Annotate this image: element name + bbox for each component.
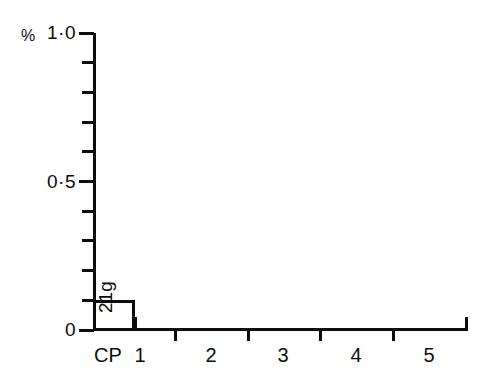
y-axis-tick-label-wrap: 0 bbox=[0, 320, 76, 339]
x-axis-label-cp: CP bbox=[94, 345, 122, 365]
x-axis-tick bbox=[247, 328, 250, 341]
x-axis-tick bbox=[174, 328, 177, 341]
y-axis-tick-label: 1·0 bbox=[0, 23, 76, 42]
x-axis-tick bbox=[465, 317, 468, 331]
y-axis-tick-label: 0·5 bbox=[0, 172, 76, 191]
y-axis-tick bbox=[79, 180, 94, 183]
y-axis-tick-label-wrap: 0·5 bbox=[0, 172, 76, 191]
x-axis-label-3: 3 bbox=[277, 345, 288, 365]
x-axis-label-2: 2 bbox=[205, 345, 216, 365]
x-axis-label-1: 1 bbox=[134, 345, 145, 365]
x-axis-label-5: 5 bbox=[423, 345, 434, 365]
x-axis-tick bbox=[392, 328, 395, 341]
bar-annotation-21g: 21g bbox=[96, 282, 115, 314]
y-axis-tick bbox=[79, 329, 94, 332]
x-axis-label-4: 4 bbox=[350, 345, 361, 365]
x-axis-line bbox=[93, 328, 466, 331]
y-axis-tick bbox=[82, 91, 94, 94]
bar-chart: % 1·00·50 CP12345 21g bbox=[0, 0, 498, 383]
y-axis-tick bbox=[82, 61, 94, 64]
y-axis-tick bbox=[82, 121, 94, 124]
y-axis-tick-label-wrap: 1·0 bbox=[0, 23, 76, 42]
y-axis-tick bbox=[82, 269, 94, 272]
y-axis-tick bbox=[79, 32, 94, 35]
y-axis-tick-label: 0 bbox=[0, 320, 76, 339]
y-axis-tick bbox=[82, 239, 94, 242]
y-axis-tick bbox=[82, 150, 94, 153]
y-axis-tick bbox=[82, 210, 94, 213]
x-axis-tick bbox=[319, 328, 322, 341]
